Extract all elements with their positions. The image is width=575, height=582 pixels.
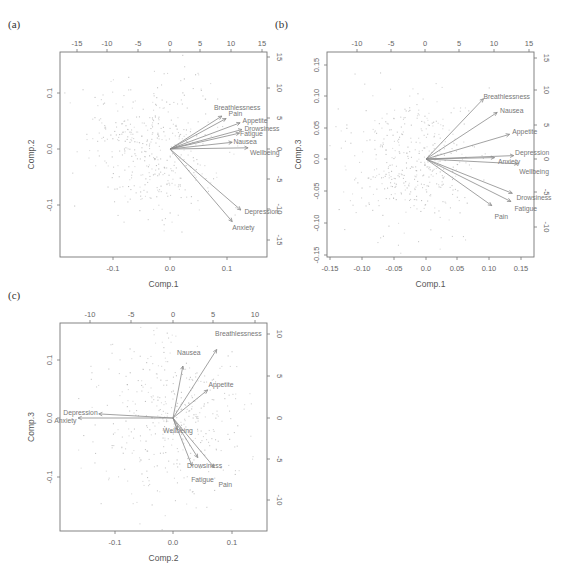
top-tick-label: 10 [251, 310, 259, 319]
variable-label: Anxiety [232, 224, 255, 232]
top-tick-label: 15 [258, 39, 266, 48]
variable-label: Nausea [500, 107, 524, 114]
y-tick-label: 0.0 [312, 154, 321, 164]
variable-label: Drowsiness [516, 194, 552, 201]
top-tick-label: 15 [525, 39, 533, 48]
y-tick-label: 0.1 [45, 88, 54, 98]
top-tick-label: 10 [227, 39, 235, 48]
variable-label: Pain [495, 213, 509, 220]
variable-label: Depression [63, 409, 98, 417]
panel-b: (b)-0.15-0.10-0.050.00.050.100.15Comp.10… [275, 18, 552, 289]
variable-label: Wellbeing [250, 149, 280, 157]
top-tick-label: -10 [352, 39, 363, 48]
x-tick-label: 0.1 [222, 264, 232, 273]
top-tick-label: -5 [128, 310, 135, 319]
variable-label: Breathlessness [215, 330, 262, 337]
x-tick-label: 0.0 [165, 264, 175, 273]
top-tick-label: 10 [490, 39, 498, 48]
y-tick-label: 0.0 [45, 413, 54, 423]
x-tick-label: -0.1 [109, 538, 122, 547]
top-tick-label: 5 [457, 39, 461, 48]
top-tick-label: 0 [168, 39, 172, 48]
loading-arrow-depression: Depression [170, 149, 279, 216]
right-tick-label: 0 [275, 416, 284, 420]
right-tick-label: -10 [542, 222, 551, 233]
variable-label: Depression [515, 149, 550, 157]
y-tick-label: 0.05 [312, 121, 321, 136]
variable-label: Depression [244, 208, 279, 216]
score-points [303, 72, 490, 253]
x-axis-title: Comp.1 [416, 279, 446, 289]
loading-arrow-anxiety: Anxiety [170, 149, 255, 232]
right-tick-label: -5 [275, 456, 284, 463]
panel-c: (c)-0.10.00.1Comp.20.10.0-0.1Comp.3-10-5… [8, 289, 289, 563]
x-axis-title: Comp.1 [149, 279, 179, 289]
variable-label: Fatigue [240, 130, 263, 138]
right-tick-label: -10 [275, 495, 284, 506]
top-tick-label: -10 [102, 39, 113, 48]
score-points [64, 50, 244, 233]
y-tick-label: 0.10 [312, 89, 321, 104]
y-tick-label: -0.10 [312, 214, 321, 231]
loading-arrow-drowsiness: Drowsiness [426, 159, 552, 201]
right-tick-label: -5 [275, 176, 284, 183]
top-tick-label: 5 [198, 39, 202, 48]
variable-label: Anxiety [54, 417, 77, 425]
top-tick-label: 0 [171, 310, 175, 319]
x-tick-label: -0.1 [107, 264, 120, 273]
variable-label: Appetite [512, 128, 537, 136]
right-tick-label: 0 [542, 157, 551, 161]
right-tick-label: -15 [275, 235, 284, 246]
x-tick-label: 0.10 [482, 264, 497, 273]
loading-arrow-nausea: Nausea [173, 349, 201, 418]
variable-label: Pain [229, 110, 243, 117]
right-tick-label: 10 [275, 84, 284, 92]
y-tick-label: -0.1 [45, 471, 54, 484]
top-tick-label: 0 [423, 39, 427, 48]
right-tick-label: 15 [542, 54, 551, 62]
panel-tag: (b) [275, 18, 288, 31]
top-tick-label: -5 [388, 39, 395, 48]
right-tick-label: 5 [275, 116, 284, 120]
x-tick-label: -0.05 [385, 264, 402, 273]
score-points [55, 320, 289, 530]
variable-label: Appetite [209, 381, 234, 389]
loading-arrow-breathlessness: Breathlessness [173, 330, 262, 418]
loading-arrow-nausea: Nausea [426, 107, 524, 159]
variable-label: Pain [218, 481, 232, 488]
y-tick-label: -0.15 [312, 246, 321, 263]
loading-arrow-appetite: Appetite [173, 381, 234, 418]
variable-label: Nausea [177, 349, 201, 356]
x-axis-title: Comp.2 [149, 553, 179, 563]
right-tick-label: 10 [542, 86, 551, 94]
right-tick-label: 5 [542, 123, 551, 127]
variable-label: Fatigue [514, 205, 537, 213]
loading-arrow-pain: Pain [426, 159, 508, 220]
loading-arrow-depression: Depression [63, 409, 173, 418]
panel-tag: (c) [8, 289, 21, 302]
y-tick-label: -0.1 [45, 199, 54, 212]
x-tick-label: 0.0 [421, 264, 431, 273]
loading-arrow-nausea: Nausea [170, 138, 257, 149]
y-axis-title: Comp.3 [293, 139, 303, 169]
y-tick-label: 0.1 [45, 355, 54, 365]
x-tick-label: 0.15 [514, 264, 529, 273]
right-tick-label: 5 [275, 374, 284, 378]
x-tick-label: -0.15 [321, 264, 338, 273]
top-tick-label: -10 [85, 310, 96, 319]
variable-label: Breathlessness [484, 93, 531, 100]
top-tick-label: -15 [72, 39, 83, 48]
loading-arrow-wellbeing: Wellbeing [170, 146, 280, 157]
variable-label: Fatigue [191, 476, 214, 484]
variable-label: Nausea [233, 138, 257, 145]
y-tick-label: -0.05 [312, 182, 321, 199]
x-tick-label: 0.05 [450, 264, 465, 273]
x-tick-label: 0.0 [168, 538, 178, 547]
panel-a: (a)-0.10.00.1Comp.10.10.0-0.1Comp.2-15-1… [8, 18, 284, 289]
x-tick-label: 0.1 [227, 538, 237, 547]
right-tick-label: 10 [275, 330, 284, 338]
y-tick-label: 0.0 [45, 144, 54, 154]
y-tick-label: 0.15 [312, 58, 321, 73]
loading-arrow-drowsiness: Drowsiness [173, 418, 223, 469]
x-tick-label: -0.10 [353, 264, 370, 273]
